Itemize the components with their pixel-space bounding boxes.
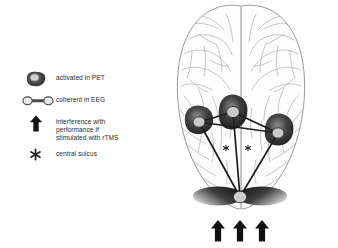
node-superior-medial [227, 106, 240, 117]
node-left-lateral [193, 117, 205, 127]
legend-icon-slot [22, 94, 56, 110]
legend-label-central-sulcus: central sulcus [56, 148, 97, 158]
node-right-lateral [272, 128, 284, 138]
legend-item-coherent-in-eeg: coherent in EEG [22, 94, 105, 110]
dumbbell-link-icon [22, 95, 54, 107]
rtms-arrow-3 [255, 220, 269, 242]
legend-item-interference-rtms: interference with performance if stimula… [22, 116, 119, 143]
legend-icon-slot [22, 148, 56, 164]
legend-icon-slot [22, 116, 56, 132]
legend-icon-slot [22, 72, 56, 88]
rtms-arrow-2 [233, 220, 247, 242]
star-icon [29, 148, 42, 161]
legend: activated in PET coherent in EEG interfe… [22, 72, 172, 172]
legend-label-activated-in-pet: activated in PET [56, 72, 105, 82]
legend-item-central-sulcus: central sulcus [22, 148, 97, 164]
legend-label-interference-rtms: interference with performance if stimula… [56, 116, 119, 143]
rtms-arrows [211, 220, 269, 242]
brain-svg [168, 0, 338, 248]
legend-label-coherent-in-eeg: coherent in EEG [56, 94, 105, 104]
node-occipital [233, 191, 246, 203]
filled-blob-icon [25, 71, 47, 87]
up-arrow-icon [29, 115, 43, 132]
brain-diagram [168, 0, 338, 248]
figure-canvas: activated in PET coherent in EEG interfe… [0, 0, 338, 248]
legend-item-activated-in-pet: activated in PET [22, 72, 105, 88]
rtms-arrow-1 [211, 220, 225, 242]
